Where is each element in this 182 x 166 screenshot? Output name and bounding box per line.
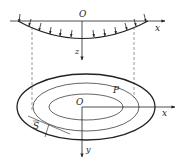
load-arrow-icon: [93, 30, 94, 37]
load-arrow-icon: [104, 29, 105, 36]
section-origin-label: O: [79, 9, 87, 19]
deflection-curve: [18, 21, 148, 39]
load-arrow-icon: [50, 27, 51, 34]
diagram-canvas: O x z O x y P S: [0, 0, 182, 166]
load-arrow-icon: [60, 29, 61, 36]
plan-x-label: x: [162, 108, 167, 118]
section-view: O x z: [10, 9, 165, 60]
plan-origin-label: O: [76, 97, 84, 107]
load-arrow-icon: [125, 23, 127, 30]
load-arrow-icon: [115, 27, 116, 34]
boundary-point-p-label: P: [112, 85, 120, 95]
boundary-s-label: S: [33, 121, 39, 131]
load-arrow-icon: [39, 23, 41, 31]
plan-y-label: y: [85, 145, 91, 154]
load-arrow-icon: [71, 30, 72, 37]
load-arrow-icon: [134, 19, 136, 26]
plan-view: O x y P S: [17, 74, 175, 157]
section-z-label: z: [74, 47, 80, 56]
load-arrow-icon: [29, 19, 31, 26]
section-x-label: x: [155, 23, 160, 33]
